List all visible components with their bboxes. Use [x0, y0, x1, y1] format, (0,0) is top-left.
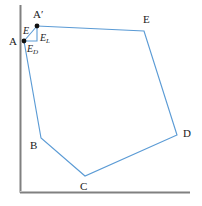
- error-label-total-base: E: [23, 25, 29, 36]
- error-label-departure-sub: D: [33, 48, 38, 56]
- prime-mark: ′: [41, 8, 43, 20]
- error-label-total: E: [23, 26, 29, 36]
- figure-container: A′ E D C B A E EL ED: [0, 0, 202, 206]
- traverse-polyline: [24, 26, 177, 176]
- error-label-latitude: EL: [40, 33, 50, 43]
- vertex-label-a: A: [9, 36, 17, 47]
- error-label-latitude-sub: L: [46, 37, 50, 45]
- vertex-label-d: D: [183, 128, 191, 139]
- vertex-label-c: C: [80, 181, 87, 192]
- error-label-departure: ED: [27, 44, 38, 54]
- diagram-canvas: [0, 0, 202, 206]
- vertex-label-b: B: [30, 140, 37, 151]
- vertex-dot-a: [22, 39, 27, 44]
- vertex-label-a-prime: A′: [33, 9, 43, 20]
- vertex-label-e: E: [143, 14, 150, 25]
- vertex-dot-a-prime: [35, 24, 40, 29]
- vertex-label-a-prime-text: A: [33, 8, 41, 20]
